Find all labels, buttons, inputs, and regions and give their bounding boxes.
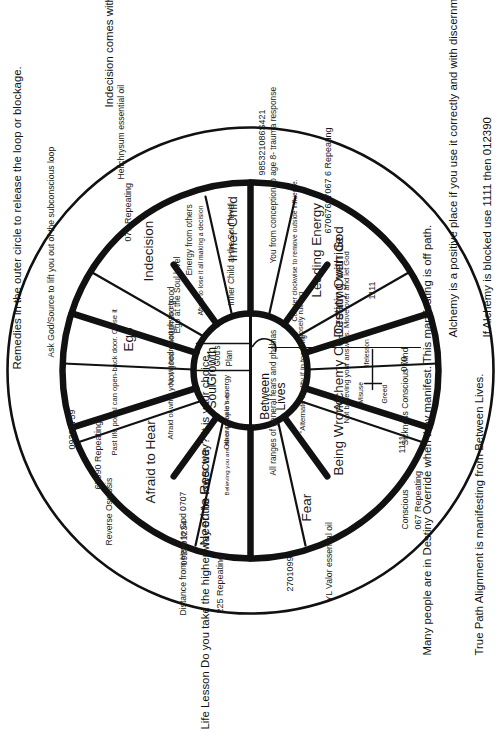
segment-title-ego: Ego	[120, 311, 135, 351]
ring-number-need-to-rescue-1: 225 Repeating	[214, 543, 224, 613]
ring-number-inner-child-1: 985321086S421	[256, 91, 266, 175]
note-bottom-left-1: Many people are in Destiny Override when…	[418, 435, 434, 655]
ring-number-fear-1: 2701099	[284, 531, 294, 591]
note-bottom-left-2: True Path Alignment is manifesting from …	[470, 475, 486, 655]
segment-sub-afraid-to-hear-1: Past life portal can open-back door. Clo…	[110, 409, 119, 455]
ring-number-afraid-to-hear-2: 09321759	[66, 383, 76, 449]
ring-text-afraid-to-hear: Reverse Osmosis	[104, 491, 114, 545]
segment-sub-being-wrong-2: Not believing your answers. Move over an…	[342, 361, 351, 423]
segment-sub-afraid-to-hear-2: Afraid of what you will hear. Bad news e…	[166, 387, 175, 439]
segment-title-being-wrong: Being Wrong	[330, 417, 347, 475]
ring-text-ego: Ask God/Source to lift you out of the su…	[46, 279, 56, 357]
hub-plan-label: Plan	[224, 336, 233, 366]
segment-sub-alchemy-greed: Greed	[380, 373, 388, 403]
note-bottom-right-2: If Alchemy is blocked use 1111 then 0123…	[478, 73, 494, 337]
segment-sub-being-wrong-1: "Alternate reality if in too long"	[298, 377, 307, 433]
diagram-page: Soul Growth God's Plan Between Lives Nee…	[0, 0, 500, 741]
segment-title-indecision: Indecision	[140, 201, 155, 281]
ring-number-destiny-override-1: 1111	[366, 265, 376, 299]
segment-sub-alchemy-lifelesson: lifelesson	[362, 323, 370, 367]
segment-sub-inner-child-1: Inner Child at the Soul level	[226, 249, 236, 305]
ring-number-being-wrong-1: 1111	[396, 419, 406, 453]
ring-number-afraid-to-hear-1: 67090 Repeating	[92, 403, 102, 489]
segment-sub-need-to-rescue-2: Other people's energy	[222, 409, 231, 449]
segment-sub-fear-1: All ranges of general fears and phobias	[268, 421, 278, 475]
ring-number-leading-energy-1: 67067667067 6 Repeating	[322, 121, 332, 233]
segment-sub-alchemy-misuse: Misuse	[356, 373, 364, 403]
segment-sub-indecision-2: Energy from others	[184, 227, 194, 275]
hub-gods-label: God's	[212, 336, 221, 366]
segment-title-afraid-to-hear: Afraid to Hear	[142, 393, 157, 503]
ring-number-need-to-rescue-2: 092391234	[178, 499, 188, 565]
wheel-rotated-frame: Soul Growth God's Plan Between Lives Nee…	[0, 0, 500, 741]
ring-number-indecision-1: 071 Repeating	[122, 169, 132, 241]
segment-sub-need-to-rescue-1: Believing you are the only one to help.	[222, 451, 229, 495]
segment-title-fear: Fear	[298, 481, 313, 521]
ring-number-alchemy-1: 070	[398, 337, 408, 371]
segment-sub-inner-child-2: You from conception to age 8- trauma res…	[268, 197, 278, 263]
ring-text-fear: YL Valor essential oil	[324, 545, 334, 601]
note-far-right: Indecision comes with right shoulder pai…	[100, 15, 116, 107]
segment-sub-ego-1: Not good enough too good	[166, 337, 176, 385]
ring-text-being-wrong: Conscious	[400, 469, 410, 529]
segment-sub-indecision-1: Afraid to lose it all making a decision	[196, 275, 204, 315]
segment-sub-ego-2: Ego at the Soul level	[172, 243, 182, 333]
note-top-right: Remedies in the outer circle to release …	[8, 149, 24, 369]
note-bottom-right-1: Alchemy is a positive place if you use i…	[444, 85, 460, 337]
note-bottom-left-3: Life Lesson Do you take the higher way o…	[196, 579, 212, 729]
